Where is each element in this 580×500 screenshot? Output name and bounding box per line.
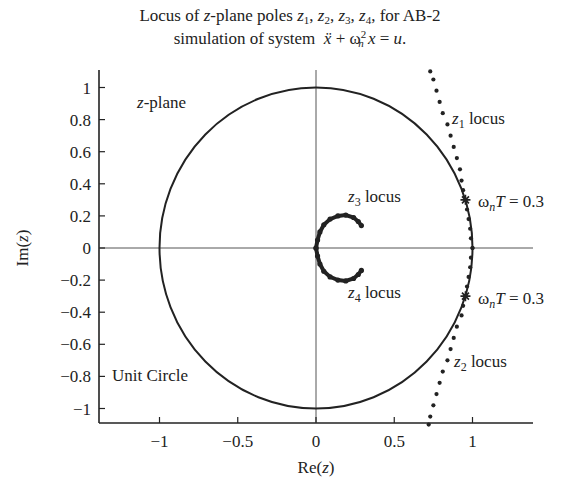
y-tick-label: −0.6 [60,335,91,354]
locus-point [465,284,469,288]
locus-point [452,145,456,149]
y-tick-label: 0 [83,239,92,258]
label-z1-locus: z1 locus [451,109,505,131]
locus-point [445,358,449,362]
locus-point [458,167,462,171]
locus-point [469,256,473,260]
label-unit-circle: Unit Circle [112,366,188,385]
locus-point [431,403,435,407]
locus-point [465,207,469,211]
locus-point [434,392,438,396]
wnT-marker-icon [460,195,470,205]
locus-point [452,336,456,340]
x-tick-label: −1 [150,432,168,451]
label-z3-locus: z3 locus [347,187,401,209]
y-tick-label: 0.4 [70,175,92,194]
locus-point [459,178,463,182]
label-z4-locus: z4 locus [347,283,401,305]
locus-point [448,347,452,351]
locus-point [461,304,465,308]
locus-point [461,188,465,192]
x-tick-label: −0.5 [222,432,253,451]
locus-point [441,111,445,115]
x-tick-label: 1 [468,432,477,451]
locus-point [466,275,470,279]
y-tick-label: 1 [83,79,92,98]
locus-curve [316,248,361,281]
locus-point [468,227,472,231]
locus-point [438,381,442,385]
locus-point [455,156,459,160]
locus-curve [316,215,361,248]
z4-locus [313,245,364,283]
y-tick-label: −1 [73,400,91,419]
z1-locus [428,69,474,250]
locus-point [441,369,445,373]
locus-point [468,265,472,269]
pole-locus-plot: −1−0.500.5110.80.60.40.20−0.2−0.4−0.6−0.… [0,0,580,500]
locus-point [427,422,431,426]
locus-point [466,217,470,221]
label-wnT-lower: ωnT = 0.3 [478,289,544,311]
x-tick-label: 0 [312,432,321,451]
locus-point [428,69,432,73]
label-z2-locus: z2 locus [453,352,507,374]
wnT-marker-icon [460,291,470,301]
z3-locus [313,212,364,250]
y-tick-label: 0.6 [70,143,91,162]
label-wnT-upper: ωnT = 0.3 [478,192,544,214]
locus-point [469,236,473,240]
locus-point [445,122,449,126]
locus-point [428,414,432,418]
x-tick-label: 0.5 [384,432,405,451]
label-z-plane: z-plane [136,93,186,112]
locus-point [455,325,459,329]
locus-point [434,89,438,93]
annotations: z-planeUnit Circlez1 locusz2 locusz3 loc… [112,93,544,385]
y-tick-label: 0.2 [70,207,91,226]
y-tick-label: 0.8 [70,111,91,130]
z2-locus [427,246,475,427]
y-tick-label: −0.8 [60,367,91,386]
locus-point [459,313,463,317]
locus-point [448,134,452,138]
y-axis-label: Im(z) [13,230,32,267]
locus-point [470,246,474,250]
x-axis-label: Re(z) [298,458,335,477]
locus-point [438,100,442,104]
y-tick-label: −0.2 [60,271,91,290]
y-tick-label: −0.4 [60,303,91,322]
locus-point [431,77,435,81]
axes: −1−0.500.5110.80.60.40.20−0.2−0.4−0.6−0.… [13,70,533,477]
